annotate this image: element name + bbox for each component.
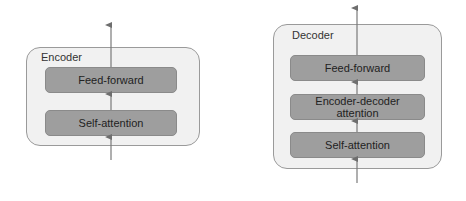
flow-arrows	[0, 0, 466, 201]
